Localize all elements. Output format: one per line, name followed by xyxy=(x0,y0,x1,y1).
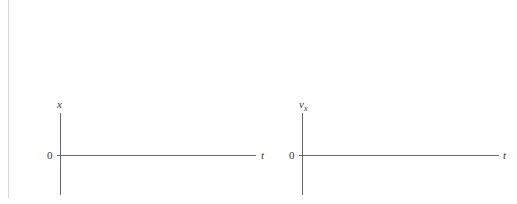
x-axis-label: t xyxy=(503,150,506,161)
velocity-time-graph: vx 0 t xyxy=(0,0,517,204)
origin-label: 0 xyxy=(289,150,295,161)
y-axis-label: vx xyxy=(299,99,307,110)
y-axis xyxy=(302,113,303,195)
time-axis xyxy=(299,155,499,156)
